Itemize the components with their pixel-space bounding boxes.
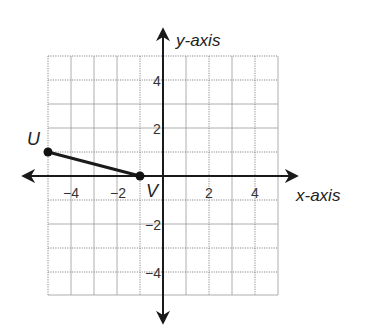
x-axis-label: x-axis (295, 186, 341, 205)
x-tick-label: −4 (63, 185, 79, 201)
x-tick-label: 2 (205, 185, 213, 201)
coordinate-plane: y-axis x-axis −4 −2 2 4 4 2 −2 −4 U V (0, 0, 368, 335)
y-tick-label: 2 (153, 121, 161, 137)
y-tick-label: −2 (145, 217, 161, 233)
y-tick-label: −4 (145, 265, 161, 281)
point-v-label: V (146, 181, 160, 201)
point-v (136, 172, 145, 181)
point-u-label: U (27, 129, 41, 149)
point-u (44, 148, 53, 157)
x-tick-label: 4 (251, 185, 259, 201)
y-axis-label: y-axis (175, 31, 221, 50)
y-tick-label: 4 (153, 73, 161, 89)
x-tick-label: −2 (110, 185, 126, 201)
